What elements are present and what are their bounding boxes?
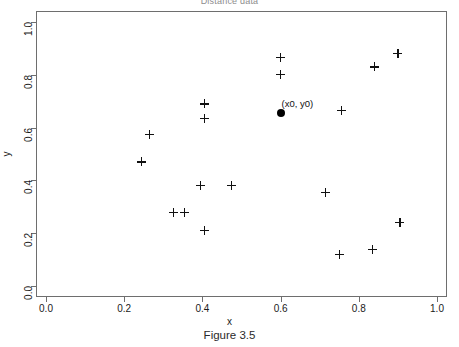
x-tick-label: 1.0 — [430, 303, 444, 314]
figure-container: Distance data (x0, y0) 0.00.20.40.60.81.… — [0, 0, 459, 347]
y-tick-label: 0.4 — [23, 180, 34, 194]
plot-frame — [36, 11, 447, 297]
x-tick-mark — [46, 297, 47, 302]
x-tick-label: 0.2 — [117, 303, 131, 314]
y-tick-label: 0.0 — [23, 286, 34, 300]
x-axis-label: x — [0, 316, 459, 327]
figure-caption: Figure 3.5 — [0, 329, 459, 341]
y-tick-label: 1.0 — [23, 22, 34, 36]
y-tick-label: 0.8 — [23, 75, 34, 89]
x-tick-label: 0.6 — [274, 303, 288, 314]
x-tick-mark — [124, 297, 125, 302]
x-tick-mark — [202, 297, 203, 302]
plot-title: Distance data — [0, 0, 459, 5]
x-tick-label: 0.4 — [195, 303, 209, 314]
x-tick-mark — [359, 297, 360, 302]
y-tick-label: 0.2 — [23, 233, 34, 247]
x-tick-mark — [281, 297, 282, 302]
x-tick-label: 0.8 — [352, 303, 366, 314]
y-axis-label: y — [1, 152, 12, 157]
y-tick-label: 0.6 — [23, 128, 34, 142]
x-tick-mark — [437, 297, 438, 302]
x-tick-label: 0.0 — [39, 303, 53, 314]
